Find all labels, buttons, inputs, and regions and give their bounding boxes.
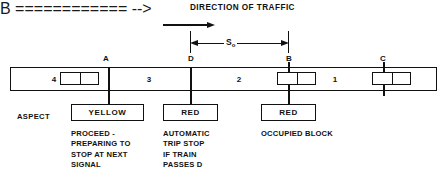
node-label-a: A [98,54,114,63]
signal-marker-cell [80,73,99,84]
signal-marker-cell [373,73,392,84]
signal-marker-cell [297,73,316,84]
aspect-box-a: YELLOW [71,104,144,121]
signal-marker-block-4 [60,72,99,85]
aspect-description-a: PROCEED - PREPARING TO STOP AT NEXT SIGN… [71,129,166,171]
leader-line-b [288,95,290,104]
signal-marker-b [277,72,316,85]
direction-of-traffic-arrow-icon [163,21,217,29]
signal-marker-cell [61,73,80,84]
railway-signalling-diagram: DIRECTION OF TRAFFIC B ============ --> … [0,0,445,191]
dimension-line-so: So [190,39,289,48]
aspect-box-b: RED [261,104,316,121]
dimension-subscript: o [232,42,236,48]
block-label-2: 2 [233,75,245,84]
dimension-label-so: So [224,37,237,47]
signal-marker-c [372,72,411,85]
leader-line-a [108,91,110,104]
aspect-row-label: ASPECT [17,112,50,121]
aspect-description-d: AUTOMATIC TRIP STOP IF TRAIN PASSES D [163,129,253,171]
block-label-4: 4 [48,75,60,84]
block-label-3: 3 [143,75,155,84]
signal-marker-cell [278,73,297,84]
aspect-description-b: OCCUPIED BLOCK [261,129,371,139]
block-divider-a [108,67,110,91]
block-divider-d [190,67,192,91]
dimension-symbol: S [226,37,232,47]
leader-line-d [190,91,192,104]
aspect-box-d: RED [163,104,218,121]
block-label-1: 1 [329,75,341,84]
node-label-d: D [183,54,199,63]
diagram-title: DIRECTION OF TRAFFIC [190,3,295,12]
signal-marker-cell [392,73,411,84]
